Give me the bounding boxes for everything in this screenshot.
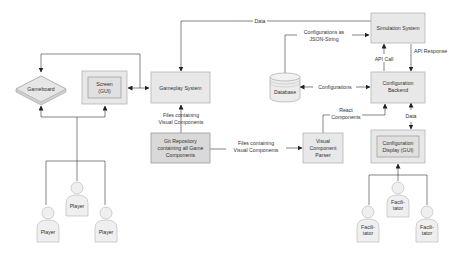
svg-text:Visual Components: Visual Components	[159, 119, 204, 125]
svg-text:Components: Components	[166, 152, 196, 158]
svg-text:API Response: API Response	[414, 48, 447, 54]
svg-text:API Call: API Call	[375, 56, 394, 62]
svg-text:Display (GUI): Display (GUI)	[382, 147, 413, 153]
gameplay-system-node: Gameplay System	[151, 72, 210, 103]
svg-text:Backend: Backend	[388, 87, 408, 93]
edge-git-gameplay: Files containing Visual Components	[159, 105, 204, 133]
facilitator-actor: Facili- tator	[387, 182, 409, 217]
configuration-display-node: Configuration Display (GUI)	[371, 130, 425, 163]
svg-text:containing all Game: containing all Game	[158, 145, 204, 151]
svg-text:Database: Database	[274, 89, 296, 95]
visual-component-parser-node: Visual Component Parser	[303, 133, 343, 163]
database-node: Database	[270, 73, 300, 102]
player-actor: Player	[37, 207, 59, 242]
facilitator-actor: Facili- tator	[357, 206, 379, 242]
svg-text:Simulation System: Simulation System	[377, 25, 420, 31]
facilitator-actor: Facili- tator	[416, 206, 438, 242]
svg-text:Visual Components: Visual Components	[234, 147, 279, 153]
edge-api: API Call API Response	[372, 44, 447, 71]
svg-text:Configurations as: Configurations as	[304, 29, 345, 35]
gameboard-node: Gameboard	[16, 76, 66, 105]
svg-text:React: React	[339, 107, 353, 113]
svg-text:Git Repository: Git Repository	[164, 138, 197, 144]
svg-text:Files containing: Files containing	[163, 112, 199, 118]
svg-text:Gameplay System: Gameplay System	[159, 85, 201, 91]
edge-data-display: Data	[406, 103, 417, 129]
svg-text:Visual: Visual	[316, 138, 330, 144]
svg-text:Player: Player	[70, 203, 85, 209]
svg-text:Components: Components	[331, 114, 361, 120]
svg-text:Screen: Screen	[96, 81, 113, 87]
svg-text:tator: tator	[363, 230, 374, 236]
svg-text:Configuration: Configuration	[383, 80, 414, 86]
simulation-system-node: Simulation System	[371, 13, 425, 43]
svg-text:Configuration: Configuration	[383, 140, 414, 146]
git-repository-node: Git Repository containing all Game Compo…	[151, 133, 210, 163]
svg-text:Data: Data	[406, 113, 417, 119]
svg-text:Player: Player	[99, 229, 114, 235]
screen-node: Screen (GUI)	[82, 71, 127, 104]
edge-git-parser: Files containing Visual Components	[210, 140, 302, 153]
svg-text:Parser: Parser	[315, 152, 331, 158]
svg-text:Gameboard: Gameboard	[27, 86, 55, 92]
svg-text:Player: Player	[41, 229, 56, 235]
svg-text:(GUI): (GUI)	[98, 88, 111, 94]
svg-text:JSON-String: JSON-String	[309, 36, 338, 42]
svg-text:Data: Data	[255, 18, 266, 24]
architecture-diagram: Data Files containing Visual Components …	[0, 0, 450, 256]
svg-text:Files containing: Files containing	[238, 140, 274, 146]
edge-json: Configurations as JSON-String	[285, 29, 369, 73]
edge-data-top: Data	[181, 17, 371, 71]
configuration-backend-node: Configuration Backend	[371, 72, 425, 103]
svg-text:Configurations: Configurations	[318, 84, 352, 90]
player-actor: Player	[66, 182, 88, 216]
svg-text:tator: tator	[393, 205, 404, 211]
edge-configurations: Configurations	[300, 84, 370, 90]
player-actor: Player	[95, 207, 117, 242]
svg-text:Component: Component	[310, 145, 337, 151]
svg-text:tator: tator	[422, 230, 433, 236]
edge-react-components: React Components	[323, 104, 385, 133]
